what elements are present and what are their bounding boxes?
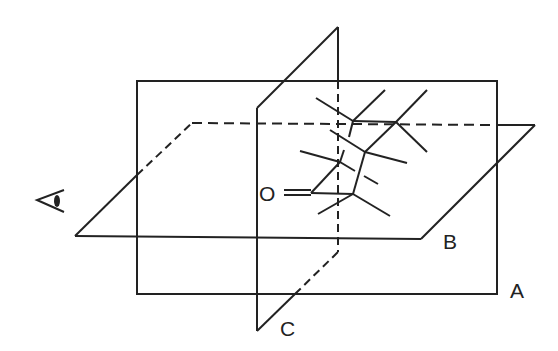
plane-b bbox=[75, 123, 535, 239]
plane-a-label: A bbox=[510, 280, 524, 301]
oxygen-label: O bbox=[259, 183, 275, 204]
plane-c-label: C bbox=[280, 318, 295, 339]
molecule-cyclohexanone bbox=[284, 90, 427, 216]
plane-c bbox=[257, 27, 338, 331]
plane-b-label: B bbox=[443, 231, 457, 252]
eye-icon bbox=[37, 190, 64, 212]
planes-molecule-diagram bbox=[0, 0, 558, 351]
